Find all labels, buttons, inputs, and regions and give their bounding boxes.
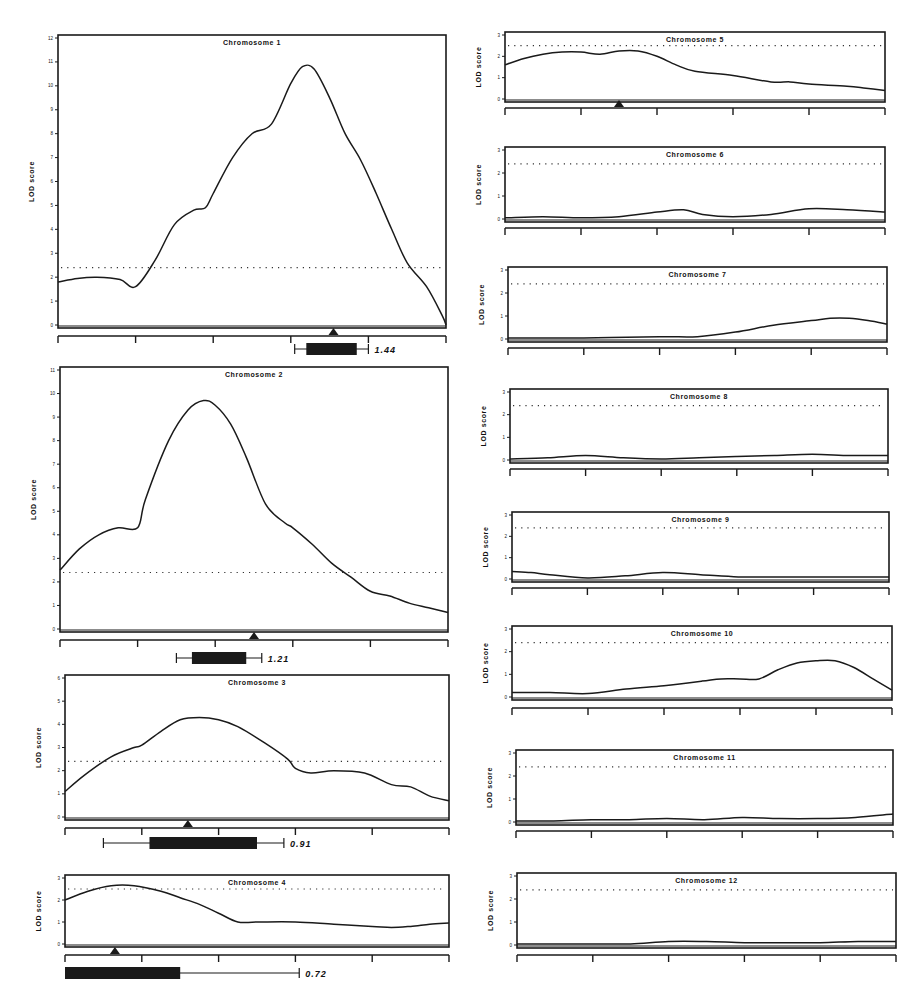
lod-curve <box>505 50 885 90</box>
y-tick-label: 3 <box>502 390 505 395</box>
y-tick-label: 1 <box>500 314 503 319</box>
y-tick-label: 5 <box>52 509 55 514</box>
chromosome-panel-11: Chromosome 11LOD score0123 <box>486 750 893 838</box>
y-tick-label: 2 <box>504 534 507 539</box>
plot-frame <box>508 267 887 342</box>
y-tick-label: 3 <box>504 513 507 518</box>
y-tick-label: 0 <box>504 577 507 582</box>
y-tick-label: 6 <box>52 485 55 490</box>
plot-frame <box>505 147 885 222</box>
y-tick-label: 5 <box>57 699 60 704</box>
y-tick-label: 2 <box>57 768 60 773</box>
y-tick-label: 1 <box>52 603 55 608</box>
y-tick-label: 2 <box>504 649 507 654</box>
y-tick-label: 1 <box>497 75 500 80</box>
y-axis-label: LOD score <box>30 479 37 520</box>
chart-title: Chromosome 11 <box>673 754 735 761</box>
y-axis-label: LOD score <box>486 767 493 808</box>
chart-title: Chromosome 9 <box>671 516 729 523</box>
y-tick-label: 0 <box>57 815 60 820</box>
plot-frame <box>517 873 896 948</box>
lod-curve <box>505 208 885 217</box>
y-tick-label: 4 <box>57 722 60 727</box>
chromosome-panel-1: Chromosome 1LOD score01234567891011121.4… <box>28 35 446 355</box>
peak-marker-triangle <box>328 328 338 335</box>
chart-title: Chromosome 10 <box>671 630 734 637</box>
y-tick-label: 2 <box>497 171 500 176</box>
y-tick-label: 2 <box>502 412 505 417</box>
ci-label: 1.44 <box>374 345 396 355</box>
chromosome-panel-12: Chromosome 12LOD score0123 <box>487 873 896 962</box>
lod-curve <box>65 717 449 800</box>
chart-title: Chromosome 7 <box>668 271 726 278</box>
y-tick-label: 7 <box>50 155 53 160</box>
y-tick-label: 3 <box>509 874 512 879</box>
chromosome-panel-2: Chromosome 2LOD score012345678910111.21 <box>30 367 448 664</box>
y-axis-label: LOD score <box>28 161 35 202</box>
y-tick-label: 3 <box>57 745 60 750</box>
chart-title: Chromosome 6 <box>666 151 724 158</box>
y-axis-label: LOD score <box>482 527 489 568</box>
lod-curve <box>58 65 446 325</box>
lod-curve <box>508 318 887 338</box>
y-tick-label: 2 <box>500 291 503 296</box>
y-tick-label: 3 <box>508 751 511 756</box>
y-axis-label: LOD score <box>482 643 489 684</box>
y-tick-label: 10 <box>50 391 56 396</box>
y-tick-label: 2 <box>509 897 512 902</box>
y-axis-label: LOD score <box>480 406 487 447</box>
y-tick-label: 1 <box>57 791 60 796</box>
y-tick-label: 11 <box>48 59 53 64</box>
y-axis-label: LOD score <box>475 164 482 205</box>
y-tick-label: 3 <box>504 627 507 632</box>
ci-label: 1.21 <box>268 654 290 664</box>
y-tick-label: 6 <box>57 676 60 681</box>
y-tick-label: 0 <box>502 458 505 463</box>
peak-marker-triangle <box>614 100 624 107</box>
y-tick-label: 8 <box>50 131 53 136</box>
y-tick-label: 10 <box>48 83 54 88</box>
ci-label: 0.72 <box>305 969 327 979</box>
y-axis-label: LOD score <box>35 727 42 768</box>
y-axis-label: LOD score <box>475 47 482 88</box>
y-tick-label: 7 <box>52 462 55 467</box>
chart-title: Chromosome 12 <box>675 877 738 884</box>
plot-frame <box>516 750 893 825</box>
y-tick-label: 9 <box>50 107 53 112</box>
plot-frame <box>510 389 888 463</box>
chromosome-panel-9: Chromosome 9LOD score0123 <box>482 512 889 595</box>
y-axis-label: LOD score <box>487 890 494 931</box>
y-tick-label: 1 <box>509 920 512 925</box>
ci-box <box>65 967 180 979</box>
chromosome-panel-4: Chromosome 4LOD score01230.72 <box>35 875 449 979</box>
y-tick-label: 5 <box>50 203 53 208</box>
lod-score-figure: Chromosome 1LOD score01234567891011121.4… <box>0 0 915 1000</box>
y-tick-label: 0 <box>504 695 507 700</box>
y-tick-label: 6 <box>50 179 53 184</box>
y-tick-label: 1 <box>50 299 53 304</box>
peak-marker-triangle <box>183 820 193 827</box>
y-tick-label: 4 <box>52 532 55 537</box>
ci-box <box>149 837 257 849</box>
lod-curve <box>510 454 888 459</box>
y-tick-label: 1 <box>497 194 500 199</box>
lod-curve <box>512 572 889 578</box>
lod-curve <box>60 400 448 612</box>
lod-curve <box>512 660 892 694</box>
plot-frame <box>60 367 448 632</box>
y-tick-label: 3 <box>52 556 55 561</box>
ci-box <box>306 343 356 355</box>
y-tick-label: 0 <box>57 942 60 947</box>
plot-frame <box>512 626 892 700</box>
chromosome-panel-10: Chromosome 10LOD score0123 <box>482 626 892 715</box>
peak-marker-triangle <box>110 947 120 954</box>
chart-title: Chromosome 8 <box>670 393 728 400</box>
y-tick-label: 2 <box>52 579 55 584</box>
y-tick-label: 2 <box>57 898 60 903</box>
y-tick-label: 3 <box>497 148 500 153</box>
y-tick-label: 1 <box>504 555 507 560</box>
chromosome-panel-3: Chromosome 3LOD score01234560.91 <box>35 675 449 849</box>
plot-frame <box>58 35 446 328</box>
y-tick-label: 1 <box>508 797 511 802</box>
y-tick-label: 3 <box>57 876 60 881</box>
